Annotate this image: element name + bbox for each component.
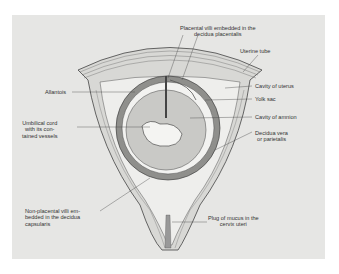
label-non-placental-villi: Non-placental villi em- bedded in the de… bbox=[25, 208, 80, 227]
label-yolk-sac: Yolk sac bbox=[255, 96, 276, 102]
label-plug-of-mucus: Plug of mucus in the cervix uteri bbox=[208, 215, 259, 228]
label-umbilical-cord: Umbilical cord with its con- tained vess… bbox=[22, 120, 57, 139]
label-cavity-of-amnion: Cavity of amnion bbox=[255, 114, 297, 120]
label-decidua-vera: Decidua vera or parietalis bbox=[255, 130, 288, 143]
label-allantois: Allantois bbox=[45, 89, 66, 95]
label-placental-villi: Placental villi embedded in the decidua … bbox=[180, 25, 256, 38]
label-uterine-tube: Uterine tube bbox=[240, 48, 270, 54]
label-cavity-of-uterus: Cavity of uterus bbox=[255, 83, 294, 89]
